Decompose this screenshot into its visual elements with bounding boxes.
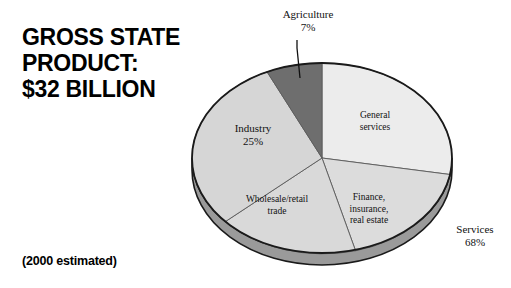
label-services-percent: 68% [440, 236, 510, 249]
label-agriculture: Agriculture 7% [248, 8, 368, 34]
title-line-2: PRODUCT: [22, 50, 212, 76]
label-wholesale-line-2: trade [268, 206, 287, 216]
label-industry-name: Industry [235, 122, 272, 134]
label-services: Services 68% [440, 223, 510, 249]
title-line-1: GROSS STATE [22, 24, 212, 50]
label-general-services-line-2: services [360, 122, 391, 132]
label-finance-line-3: real estate [350, 215, 388, 225]
label-finance-line-1: Finance, [353, 192, 385, 202]
label-finance-insurance-real-estate: Finance, insurance, real estate [330, 192, 408, 227]
chart-canvas: GROSS STATE PRODUCT: $32 BILLION (2000 e… [0, 0, 511, 288]
label-general-services: General services [335, 110, 415, 133]
page-title: GROSS STATE PRODUCT: $32 BILLION [22, 24, 212, 102]
label-wholesale-retail-trade: Wholesale/retail trade [224, 194, 330, 217]
title-line-3: $32 BILLION [22, 76, 212, 102]
label-general-services-line-1: General [360, 110, 390, 120]
label-wholesale-line-1: Wholesale/retail [246, 194, 308, 204]
label-industry: Industry 25% [208, 122, 298, 149]
footnote-estimate: (2000 estimated) [22, 254, 117, 268]
label-agriculture-name: Agriculture [283, 8, 334, 20]
label-services-name: Services [456, 223, 493, 235]
label-agriculture-percent: 7% [248, 21, 368, 34]
label-finance-line-2: insurance, [350, 204, 389, 214]
label-industry-percent: 25% [208, 135, 298, 148]
